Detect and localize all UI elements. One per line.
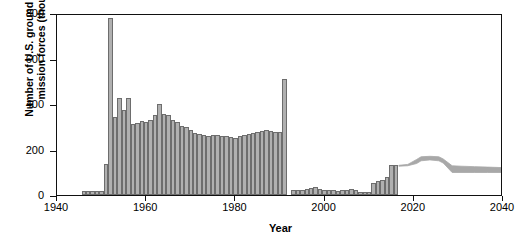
- y-axis-tick-label: 600: [8, 53, 44, 65]
- projection-band-area: [399, 156, 501, 172]
- y-axis-tick-label: 200: [8, 144, 44, 156]
- x-axis-tick-label: 2000: [311, 201, 335, 213]
- y-axis-tick-label: 0: [8, 189, 44, 201]
- x-axis-tick-label: 1960: [133, 201, 157, 213]
- y-axis-tick: [50, 151, 56, 152]
- x-axis-title: Year: [0, 222, 515, 234]
- plot-area: [56, 14, 502, 196]
- y-axis-tick: [50, 60, 56, 61]
- projection-band: [57, 15, 501, 195]
- x-axis-tick-label: 1980: [222, 201, 246, 213]
- x-axis-tick-label: 2020: [401, 201, 425, 213]
- x-axis-tick-label: 2040: [490, 201, 514, 213]
- y-axis-tick: [50, 14, 56, 15]
- y-axis-tick-label: 400: [8, 98, 44, 110]
- y-axis-tick-label: 800: [8, 7, 44, 19]
- x-axis-tick-label: 1940: [44, 201, 68, 213]
- y-axis-tick: [50, 105, 56, 106]
- x-axis-title-label: Year: [269, 222, 292, 234]
- chart-root: Number of U.S. ground deterrence mission…: [0, 0, 515, 246]
